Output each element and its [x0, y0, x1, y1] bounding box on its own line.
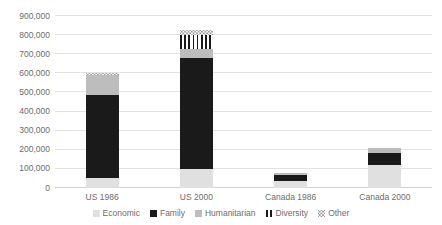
bar-segment-humanitarian[interactable]	[368, 148, 401, 153]
x-axis-tick-label: Canada 2000	[359, 191, 410, 203]
stacked-bar-chart: 0100,000200,000300,000400,000500,000600,…	[0, 0, 442, 225]
plot-area	[55, 16, 432, 188]
y-axis-tick-label: 300,000	[0, 126, 50, 135]
legend-label: Family	[160, 209, 185, 218]
bar-segment-family[interactable]	[368, 153, 401, 165]
x-axis-tick-label: Canada 1986	[265, 191, 316, 203]
bar-segment-diversity[interactable]	[180, 35, 213, 48]
humanitarian-swatch-icon	[195, 210, 202, 217]
bar-segment-economic[interactable]	[86, 178, 119, 188]
bar-segment-economic[interactable]	[180, 169, 213, 188]
family-swatch-icon	[150, 210, 157, 217]
bar-segment-economic[interactable]	[274, 181, 307, 188]
bar-us-2000[interactable]	[180, 16, 213, 188]
bar-segment-humanitarian[interactable]	[86, 75, 119, 95]
legend-item-economic[interactable]: Economic	[93, 209, 140, 218]
diversity-swatch-icon	[266, 210, 273, 217]
y-axis-tick-label: 700,000	[0, 50, 50, 59]
bar-segment-humanitarian[interactable]	[180, 49, 213, 59]
x-axis-tick-label: US 1986	[86, 191, 119, 203]
economic-swatch-icon	[93, 210, 100, 217]
y-axis-tick-label: 600,000	[0, 69, 50, 78]
legend-item-family[interactable]: Family	[150, 209, 185, 218]
bar-segment-family[interactable]	[86, 95, 119, 178]
y-axis-tick-label: 200,000	[0, 146, 50, 155]
y-axis: 0100,000200,000300,000400,000500,000600,…	[0, 16, 50, 188]
y-axis-tick-label: 900,000	[0, 12, 50, 21]
legend-label: Economic	[103, 209, 140, 218]
y-axis-tick-label: 400,000	[0, 107, 50, 116]
legend-label: Diversity	[276, 209, 309, 218]
bar-canada-2000[interactable]	[368, 16, 401, 188]
y-axis-tick-label: 100,000	[0, 165, 50, 174]
bar-segment-other[interactable]	[180, 30, 213, 35]
legend-item-diversity[interactable]: Diversity	[266, 209, 309, 218]
bar-segment-family[interactable]	[274, 175, 307, 182]
bar-us-1986[interactable]	[86, 16, 119, 188]
bar-segment-family[interactable]	[180, 58, 213, 169]
x-axis-tick-label: US 2000	[180, 191, 213, 203]
legend-label: Other	[328, 209, 349, 218]
legend-item-other[interactable]: Other	[318, 209, 349, 218]
legend-label: Humanitarian	[205, 209, 256, 218]
bar-canada-1986[interactable]	[274, 16, 307, 188]
bar-segment-humanitarian[interactable]	[274, 173, 307, 175]
y-axis-tick-label: 0	[0, 184, 50, 193]
chart-legend: EconomicFamilyHumanitarianDiversityOther	[0, 205, 442, 221]
y-axis-tick-label: 800,000	[0, 31, 50, 40]
bar-segment-other[interactable]	[86, 73, 119, 75]
y-axis-tick-label: 500,000	[0, 88, 50, 97]
legend-item-humanitarian[interactable]: Humanitarian	[195, 209, 256, 218]
other-swatch-icon	[318, 210, 325, 217]
bar-segment-economic[interactable]	[368, 165, 401, 188]
x-axis: US 1986US 2000Canada 1986Canada 2000	[55, 191, 432, 205]
